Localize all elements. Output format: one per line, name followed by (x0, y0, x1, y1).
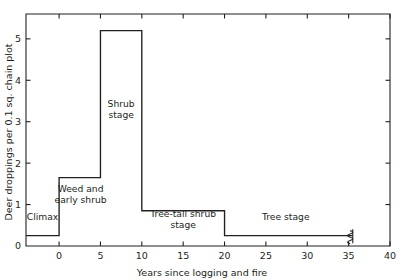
stage-label: Weed andearly shrub (55, 183, 107, 205)
x-tick-label: 30 (301, 250, 313, 261)
x-tick-label: 10 (136, 250, 148, 261)
chart-figure: 0510152025303540 012345 ClimaxWeed andea… (0, 0, 404, 280)
x-tick-label: 20 (218, 250, 230, 261)
stage-label: Tree stage (261, 211, 310, 222)
y-tick-label: 5 (15, 33, 21, 44)
chart-background (0, 0, 404, 280)
y-tick-label: 0 (15, 240, 21, 251)
stage-label: Climax (27, 211, 59, 222)
x-tick-label: 15 (177, 250, 189, 261)
y-axis-title: Deer droppings per 0.1 sq. chain plot (3, 43, 14, 220)
y-tick-label: 2 (15, 158, 21, 169)
x-axis-title: Years since logging and fire (136, 267, 268, 278)
y-tick-label: 3 (15, 116, 21, 127)
x-tick-label: 25 (260, 250, 272, 261)
y-tick-label: 4 (15, 75, 21, 86)
stage-label: Shrubstage (108, 98, 135, 120)
deer-droppings-step-chart: 0510152025303540 012345 ClimaxWeed andea… (0, 0, 404, 280)
y-tick-label: 1 (15, 199, 21, 210)
x-tick-label: 40 (384, 250, 396, 261)
x-tick-label: 5 (97, 250, 103, 261)
x-tick-label: 35 (343, 250, 355, 261)
x-tick-label: 0 (56, 250, 62, 261)
